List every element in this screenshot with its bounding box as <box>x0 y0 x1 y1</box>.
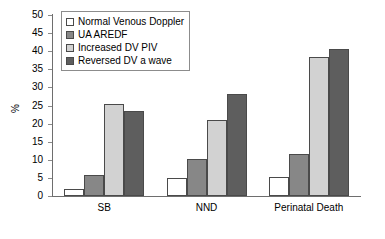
y-axis-tick-label: 10 <box>32 153 43 166</box>
y-axis-tick-mark <box>48 33 52 34</box>
x-axis-label: Perinatal Death <box>258 202 360 213</box>
y-axis-tick-label: 35 <box>32 62 43 75</box>
legend-item-label: Reversed DV a wave <box>78 55 172 66</box>
legend-item: Normal Venous Doppler <box>66 15 184 28</box>
x-axis-label: SB <box>53 202 155 213</box>
y-axis-tick-label: 25 <box>32 99 43 112</box>
bar <box>104 104 124 196</box>
bar <box>309 57 329 196</box>
legend-item-label: Increased DV PIV <box>78 42 157 53</box>
y-axis-tick-label: 50 <box>32 8 43 21</box>
bar <box>207 120 227 196</box>
legend-item: Increased DV PIV <box>66 41 184 54</box>
bar-chart: % 50454035302520151050 SBNNDPerinatal De… <box>0 0 385 239</box>
legend-item-label: Normal Venous Doppler <box>78 16 184 27</box>
legend-swatch-icon <box>66 18 74 26</box>
legend-item-label: UA AREDF <box>78 29 127 40</box>
y-axis-tick-mark <box>48 15 52 16</box>
bar <box>84 175 104 196</box>
y-axis-tick-mark <box>48 142 52 143</box>
legend-swatch-icon <box>66 44 74 52</box>
y-axis-tick-mark <box>48 178 52 179</box>
y-axis-tick-mark <box>48 196 52 197</box>
y-axis-tick-mark <box>48 51 52 52</box>
legend-item: Reversed DV a wave <box>66 54 184 67</box>
y-axis-tick-label: 45 <box>32 26 43 39</box>
bar <box>227 94 247 196</box>
y-axis-line <box>52 14 53 197</box>
bar <box>289 154 309 196</box>
x-axis-line <box>52 196 361 197</box>
bar <box>329 49 349 196</box>
y-axis-tick-label: 40 <box>32 44 43 57</box>
legend: Normal Venous DopplerUA AREDFIncreased D… <box>61 11 190 71</box>
bar <box>187 159 207 196</box>
y-axis-tick-label: 30 <box>32 80 43 93</box>
bar <box>64 189 84 196</box>
legend-item: UA AREDF <box>66 28 184 41</box>
bar <box>124 111 144 196</box>
y-axis-tick-mark <box>48 69 52 70</box>
y-axis-tick-mark <box>48 160 52 161</box>
x-axis-label: NND <box>155 202 257 213</box>
y-axis-tick-mark <box>48 106 52 107</box>
y-axis-tick-mark <box>48 124 52 125</box>
bar <box>167 178 187 196</box>
bar <box>269 177 289 196</box>
y-axis-tick-mark <box>48 87 52 88</box>
y-axis-tick-label: 15 <box>32 135 43 148</box>
y-axis-tick-label: 0 <box>37 189 43 202</box>
y-axis-title: % <box>10 98 21 120</box>
legend-swatch-icon <box>66 31 74 39</box>
legend-swatch-icon <box>66 57 74 65</box>
y-axis-tick-label: 5 <box>37 171 43 184</box>
y-axis-tick-label: 20 <box>32 117 43 130</box>
